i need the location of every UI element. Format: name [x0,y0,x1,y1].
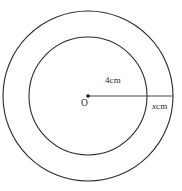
outer-band-unit: cm [156,101,167,111]
figure-canvas [0,0,182,191]
outer-band-label: xcm [152,102,167,111]
center-point-label: O [81,99,88,109]
inner-radius-label: 4cm [105,76,121,85]
geometry-figure: 4cm xcm O [0,0,182,191]
